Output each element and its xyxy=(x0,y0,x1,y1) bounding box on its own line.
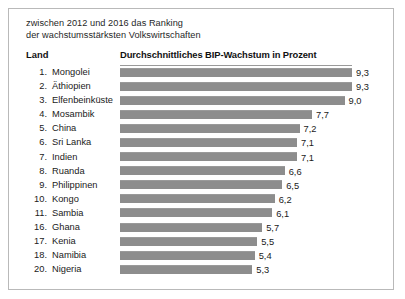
bar-track: 6,6 xyxy=(120,166,352,175)
row-rank: 3. xyxy=(26,95,47,105)
table-row: 20.Nigeria5,3 xyxy=(9,263,393,277)
bar xyxy=(120,96,345,105)
column-header-row: Land Durchschnittliches BIP-Wachstum in … xyxy=(9,49,393,65)
bar xyxy=(120,237,257,246)
table-row: 16.Ghana5,7 xyxy=(9,221,393,235)
bar-track: 9,3 xyxy=(120,82,352,91)
bar-value-label: 6,5 xyxy=(286,181,299,191)
bar-value-label: 9,3 xyxy=(356,82,369,92)
bar-value-label: 6,6 xyxy=(289,167,302,177)
row-country-label: Namibia xyxy=(52,250,86,260)
bar-track: 5,4 xyxy=(120,251,352,260)
chart-title: zwischen 2012 und 2016 das Ranking der w… xyxy=(26,18,356,41)
row-rank: 16. xyxy=(26,222,47,232)
row-rank: 20. xyxy=(26,264,47,274)
bar-value-label: 5,4 xyxy=(259,251,272,261)
bar-track: 5,5 xyxy=(120,237,352,246)
bar-value-label: 7,1 xyxy=(301,138,314,148)
row-country-label: Ruanda xyxy=(52,166,85,176)
row-rank: 8. xyxy=(26,166,47,176)
bar-track: 7,7 xyxy=(120,110,352,119)
bar-value-label: 5,5 xyxy=(261,237,274,247)
row-country-label: Kongo xyxy=(52,194,79,204)
table-row: 2.Äthiopien9,3 xyxy=(9,80,393,94)
table-row: 5.China7,2 xyxy=(9,122,393,136)
bar-track: 6,1 xyxy=(120,208,352,217)
bar xyxy=(120,180,282,189)
row-country-label: Indien xyxy=(52,152,77,162)
bar-track: 5,3 xyxy=(120,265,352,274)
bar-track: 7,2 xyxy=(120,124,352,133)
row-country-label: Mongolei xyxy=(52,67,90,77)
bar-value-label: 6,1 xyxy=(276,209,289,219)
row-rank: 1. xyxy=(26,67,47,77)
row-country-label: Sambia xyxy=(52,208,84,218)
table-row: 10.Kongo6,2 xyxy=(9,193,393,207)
bar xyxy=(120,68,352,77)
row-country-label: Sri Lanka xyxy=(52,137,91,147)
table-row: 6.Sri Lanka7,1 xyxy=(9,136,393,150)
table-row: 18.Namibia5,4 xyxy=(9,249,393,263)
row-rank: 11. xyxy=(26,208,47,218)
table-row: 9.Philippinen6,5 xyxy=(9,179,393,193)
bar xyxy=(120,138,297,147)
row-rank: 9. xyxy=(26,180,47,190)
bar-value-label: 9,3 xyxy=(356,68,369,78)
row-rank: 2. xyxy=(26,81,47,91)
bar-value-label: 5,3 xyxy=(256,265,269,275)
table-row: 1.Mongolei9,3 xyxy=(9,66,393,80)
bar-track: 5,7 xyxy=(120,223,352,232)
column-header-growth: Durchschnittliches BIP-Wachstum in Proze… xyxy=(120,49,317,60)
bar-value-label: 9,0 xyxy=(349,96,362,106)
row-country-label: Äthiopien xyxy=(52,81,91,91)
row-country-label: Kenia xyxy=(52,236,76,246)
row-rank: 6. xyxy=(26,137,47,147)
bar xyxy=(120,82,352,91)
row-country-label: China xyxy=(52,123,76,133)
bar-value-label: 6,2 xyxy=(279,195,292,205)
bar-value-label: 5,7 xyxy=(266,223,279,233)
bar xyxy=(120,166,285,175)
bar-track: 9,0 xyxy=(120,96,352,105)
bar-track: 9,3 xyxy=(120,68,352,77)
row-country-label: Mosambik xyxy=(52,109,94,119)
bar-value-label: 7,2 xyxy=(304,124,317,134)
table-row: 11.Sambia6,1 xyxy=(9,207,393,221)
table-row: 8.Ruanda6,6 xyxy=(9,165,393,179)
bar xyxy=(120,265,252,274)
bar-track: 6,5 xyxy=(120,180,352,189)
table-row: 17.Kenia5,5 xyxy=(9,235,393,249)
table-row: 4.Mosambik7,7 xyxy=(9,108,393,122)
column-header-country: Land xyxy=(26,49,48,60)
row-rank: 4. xyxy=(26,109,47,119)
row-rank: 17. xyxy=(26,236,47,246)
bar-rows: 1.Mongolei9,32.Äthiopien9,33.Elfenbeinkü… xyxy=(9,66,393,277)
bar-track: 7,1 xyxy=(120,138,352,147)
row-country-label: Ghana xyxy=(52,222,80,232)
row-rank: 18. xyxy=(26,250,47,260)
row-rank: 5. xyxy=(26,123,47,133)
bar xyxy=(120,152,297,161)
bar xyxy=(120,194,275,203)
table-row: 3.Elfenbeinküste9,0 xyxy=(9,94,393,108)
row-country-label: Elfenbeinküste xyxy=(52,95,113,105)
bar-track: 7,1 xyxy=(120,152,352,161)
bar xyxy=(120,124,300,133)
bar xyxy=(120,208,272,217)
row-rank: 10. xyxy=(26,194,47,204)
bar-value-label: 7,7 xyxy=(316,110,329,120)
row-rank: 7. xyxy=(26,152,47,162)
bar xyxy=(120,110,312,119)
row-country-label: Nigeria xyxy=(52,264,81,274)
chart-card: zwischen 2012 und 2016 das Ranking der w… xyxy=(8,8,394,290)
bar xyxy=(120,251,255,260)
bar-track: 6,2 xyxy=(120,194,352,203)
bar-value-label: 7,1 xyxy=(301,153,314,163)
table-row: 7.Indien7,1 xyxy=(9,151,393,165)
row-country-label: Philippinen xyxy=(52,180,98,190)
bar xyxy=(120,223,262,232)
